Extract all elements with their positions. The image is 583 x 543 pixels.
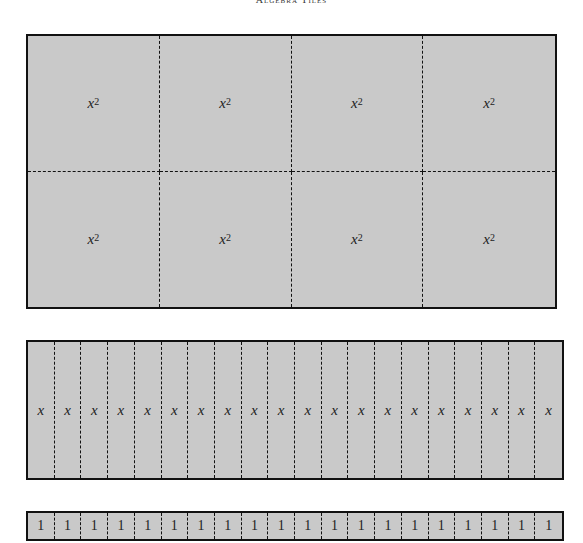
x-tile-group: xxxxxxxxxxxxxxxxxxxx bbox=[26, 340, 564, 480]
running-head: Algebra Tiles bbox=[0, 0, 583, 5]
x-squared-tile: x2 bbox=[28, 36, 160, 172]
x-tile: x bbox=[295, 342, 322, 478]
x-tile: x bbox=[242, 342, 269, 478]
unit-tile: 1 bbox=[28, 513, 55, 539]
x-tile: x bbox=[215, 342, 242, 478]
unit-tile: 1 bbox=[482, 513, 509, 539]
x-squared-tile: x2 bbox=[292, 172, 424, 308]
x-squared-tile: x2 bbox=[423, 36, 555, 172]
unit-tile: 1 bbox=[455, 513, 482, 539]
unit-tile: 1 bbox=[162, 513, 189, 539]
unit-tile: 1 bbox=[402, 513, 429, 539]
x-tile: x bbox=[268, 342, 295, 478]
unit-tile: 1 bbox=[108, 513, 135, 539]
unit-tile: 1 bbox=[295, 513, 322, 539]
unit-tile: 1 bbox=[135, 513, 162, 539]
unit-tile: 1 bbox=[55, 513, 82, 539]
x-squared-tile: x2 bbox=[160, 172, 292, 308]
unit-tile: 1 bbox=[429, 513, 456, 539]
page: Algebra Tiles x2 x2 x2 x2 x2 x2 x2 x2 xx… bbox=[0, 0, 583, 543]
x-tile: x bbox=[429, 342, 456, 478]
x-tile: x bbox=[55, 342, 82, 478]
x-tile: x bbox=[162, 342, 189, 478]
x-tile: x bbox=[348, 342, 375, 478]
x-squared-tile: x2 bbox=[160, 36, 292, 172]
unit-tile: 1 bbox=[242, 513, 269, 539]
x-tile: x bbox=[482, 342, 509, 478]
unit-tile: 1 bbox=[188, 513, 215, 539]
unit-tile: 1 bbox=[81, 513, 108, 539]
unit-tile: 1 bbox=[535, 513, 562, 539]
unit-tile: 1 bbox=[322, 513, 349, 539]
x-squared-tile: x2 bbox=[423, 172, 555, 308]
x-tile: x bbox=[81, 342, 108, 478]
unit-tile: 1 bbox=[215, 513, 242, 539]
x-tile: x bbox=[28, 342, 55, 478]
unit-tile: 1 bbox=[268, 513, 295, 539]
x-squared-tile-group: x2 x2 x2 x2 x2 x2 x2 x2 bbox=[26, 34, 557, 309]
unit-tile: 1 bbox=[348, 513, 375, 539]
x-squared-tile: x2 bbox=[292, 36, 424, 172]
x-tile: x bbox=[135, 342, 162, 478]
x-tile: x bbox=[509, 342, 536, 478]
x-tile: x bbox=[108, 342, 135, 478]
x-squared-tile: x2 bbox=[28, 172, 160, 308]
x-tile: x bbox=[188, 342, 215, 478]
x-tile: x bbox=[402, 342, 429, 478]
x-tile: x bbox=[535, 342, 562, 478]
unit-tile-group: 11111111111111111111 bbox=[26, 511, 564, 541]
unit-tile: 1 bbox=[375, 513, 402, 539]
x-tile: x bbox=[322, 342, 349, 478]
x-tile: x bbox=[455, 342, 482, 478]
x-tile: x bbox=[375, 342, 402, 478]
unit-tile: 1 bbox=[509, 513, 536, 539]
